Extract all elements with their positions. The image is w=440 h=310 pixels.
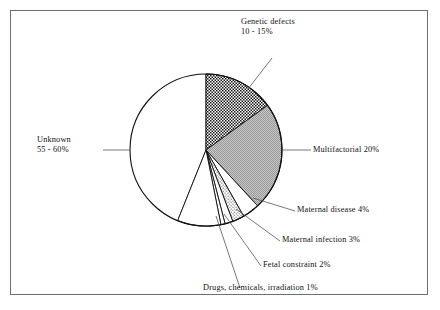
label-genetic-defects-line2: 10 - 15% bbox=[241, 27, 295, 37]
label-multifactorial-line1: Multifactorial 20% bbox=[313, 145, 379, 154]
label-maternal-infection: Maternal infection 3% bbox=[282, 235, 360, 245]
label-unknown: Unknown 55 - 60% bbox=[37, 135, 71, 155]
label-fetal-constraint: Fetal constraint 2% bbox=[263, 260, 331, 270]
label-unknown-line1: Unknown bbox=[37, 135, 71, 144]
leader-line-drugs-chemicals-irradiation bbox=[216, 216, 240, 288]
leader-line-fetal-constraint bbox=[224, 214, 261, 266]
label-maternal-disease-line1: Maternal disease 4% bbox=[297, 205, 369, 214]
clipped-caption-sliver bbox=[12, 299, 192, 308]
leader-line-genetic-defects bbox=[248, 58, 272, 89]
label-fetal-constraint-line1: Fetal constraint 2% bbox=[263, 260, 331, 269]
leader-line-maternal-infection bbox=[236, 209, 280, 241]
label-drugs-chemicals-irradiation: Drugs, chemicals, irradiation 1% bbox=[203, 283, 318, 293]
label-genetic-defects: Genetic defects 10 - 15% bbox=[241, 17, 295, 37]
label-drugs-chemicals-irradiation-line1: Drugs, chemicals, irradiation 1% bbox=[203, 283, 318, 292]
figure-container: Genetic defects 10 - 15% Unknown 55 - 60… bbox=[0, 0, 440, 310]
label-unknown-line2: 55 - 60% bbox=[37, 145, 71, 155]
label-genetic-defects-line1: Genetic defects bbox=[241, 17, 295, 26]
label-maternal-disease: Maternal disease 4% bbox=[297, 205, 369, 215]
label-maternal-infection-line1: Maternal infection 3% bbox=[282, 235, 360, 244]
label-multifactorial: Multifactorial 20% bbox=[313, 145, 379, 155]
